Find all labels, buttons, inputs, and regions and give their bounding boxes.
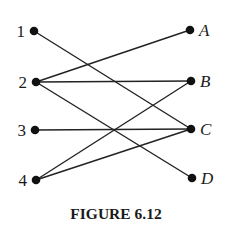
graph-labels: 1234ABCD bbox=[17, 21, 215, 190]
node-label-4: 4 bbox=[19, 171, 28, 190]
node-label-A: A bbox=[198, 21, 210, 40]
node-label-3: 3 bbox=[18, 121, 27, 140]
node-2 bbox=[32, 78, 41, 87]
node-1 bbox=[30, 27, 39, 36]
node-3 bbox=[31, 126, 40, 135]
edge-4-C bbox=[36, 129, 191, 180]
node-label-2: 2 bbox=[19, 73, 28, 92]
edge-3-C bbox=[35, 129, 191, 130]
node-label-C: C bbox=[200, 120, 212, 139]
graph-edges bbox=[34, 30, 192, 180]
node-A bbox=[186, 26, 195, 35]
node-label-B: B bbox=[200, 72, 211, 91]
edge-1-C bbox=[34, 31, 191, 129]
node-label-1: 1 bbox=[17, 22, 26, 41]
edge-2-B bbox=[36, 81, 191, 82]
figure-caption: FIGURE 6.12 bbox=[70, 205, 162, 222]
node-label-D: D bbox=[200, 169, 214, 188]
bipartite-graph-figure: 1234ABCD FIGURE 6.12 bbox=[0, 0, 237, 229]
node-B bbox=[187, 77, 196, 86]
graph-nodes bbox=[30, 26, 197, 185]
node-C bbox=[187, 125, 196, 134]
edge-2-A bbox=[36, 30, 190, 82]
node-4 bbox=[32, 176, 41, 185]
node-D bbox=[188, 174, 197, 183]
